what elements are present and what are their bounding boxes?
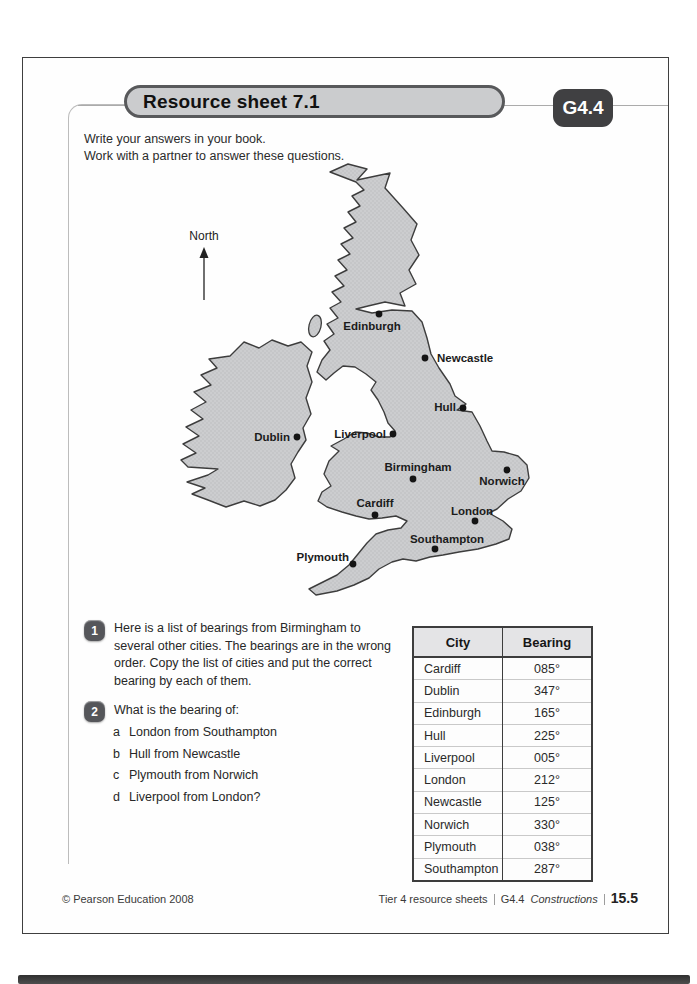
city-dot-edinburgh [376,311,383,318]
bearing-cell: 085° [503,657,593,680]
small-island-shape [307,314,324,338]
city-dot-newcastle [422,355,429,362]
footer-separator [494,894,495,905]
question-item: dLiverpool from London? [113,786,277,808]
table-row: Southampton287° [413,858,592,881]
city-label-birmingham: Birmingham [384,461,451,473]
city-cell: Dublin [413,680,503,702]
city-cell: London [413,769,503,791]
bearing-cell: 125° [503,791,593,813]
footer-page-number: 15.5 [611,890,638,906]
city-cell: Liverpool [413,747,503,769]
footer-unit-code: G4.4 [501,893,525,905]
city-dot-dublin [294,434,301,441]
unit-code-badge: G4.4 [553,89,613,127]
table-header-bearing: Bearing [503,627,593,657]
question-item: aLondon from Southampton [113,721,277,743]
question-1-number: 1 [91,624,98,638]
question-2-number: 2 [91,705,98,719]
question-item-text: Plymouth from Norwich [129,768,258,782]
unit-code: G4.4 [562,97,603,119]
question-item: bHull from Newcastle [113,743,277,765]
city-dot-norwich [504,467,511,474]
city-dot-cardiff [372,512,379,519]
city-dot-liverpool [390,431,397,438]
city-label-norwich: Norwich [479,475,524,487]
bearing-cell: 330° [503,814,593,836]
question-item-letter: d [113,790,129,804]
question-2-text: What is the bearing of: [114,702,406,720]
city-cell: Plymouth [413,836,503,858]
bearing-cell: 165° [503,702,593,724]
question-2-badge: 2 [84,701,105,722]
uk-ireland-map: North EdinburghNewcastleHullDublinLiverp… [160,160,540,600]
table-row: London212° [413,769,592,791]
city-dot-hull [460,405,467,412]
footer-series: Tier 4 resource sheets [379,893,488,905]
city-label-liverpool: Liverpool [334,428,386,440]
city-cell: Norwich [413,814,503,836]
question-item-text: London from Southampton [129,725,277,739]
city-label-dublin: Dublin [254,431,290,443]
city-cell: Newcastle [413,791,503,813]
ireland-shape [181,340,312,507]
footer-copyright: © Pearson Education 2008 [62,893,194,905]
city-cell: Southampton [413,858,503,881]
bearing-cell: 005° [503,747,593,769]
question-item-letter: b [113,747,129,761]
table-row: Newcastle125° [413,791,592,813]
city-dot-birmingham [410,476,417,483]
bearing-cell: 287° [503,858,593,881]
question-1-badge: 1 [84,620,105,641]
city-cell: Edinburgh [413,702,503,724]
city-label-newcastle: Newcastle [437,352,493,364]
question-1-text: Here is a list of bearings from Birmingh… [114,620,406,690]
footer-separator [604,894,605,905]
footer-unit-name: Constructions [530,893,597,905]
city-dot-southampton [432,546,439,553]
city-cell: Hull [413,724,503,746]
north-label: North [189,229,218,243]
table-row: Plymouth038° [413,836,592,858]
bearing-cell: 225° [503,724,593,746]
city-cell: Cardiff [413,657,503,680]
city-dot-london [472,518,479,525]
intro-line-1: Write your answers in your book. [84,131,344,148]
table-row: Liverpool005° [413,747,592,769]
city-label-hull: Hull [434,401,456,413]
table-row: Dublin347° [413,680,592,702]
question-item-letter: a [113,725,129,739]
city-label-edinburgh: Edinburgh [343,320,401,332]
city-dot-plymouth [350,561,357,568]
bottom-edge-strip [18,975,690,984]
map-svg: North EdinburghNewcastleHullDublinLiverp… [160,160,540,600]
table-row: Hull225° [413,724,592,746]
table-row: Cardiff085° [413,657,592,680]
footer-right: Tier 4 resource sheets G4.4 Construction… [379,890,638,906]
question-item-text: Liverpool from London? [129,790,260,804]
question-item-letter: c [113,768,129,782]
city-label-cardiff: Cardiff [356,497,393,509]
question-2-items: aLondon from SouthamptonbHull from Newca… [113,721,277,808]
bearing-cell: 347° [503,680,593,702]
city-label-plymouth: Plymouth [297,551,349,563]
question-item: cPlymouth from Norwich [113,765,277,787]
great-britain-shape [309,164,529,595]
page-title: Resource sheet 7.1 [143,91,320,113]
bearing-cell: 038° [503,836,593,858]
table-header-city: City [413,627,503,657]
city-label-southampton: Southampton [410,533,484,545]
resource-sheet-title-pill: Resource sheet 7.1 [124,85,505,118]
table-row: Norwich330° [413,814,592,836]
table-row: Edinburgh165° [413,702,592,724]
bearing-cell: 212° [503,769,593,791]
city-label-london: London [451,505,493,517]
north-arrow: North [189,229,218,300]
bearings-table: City Bearing Cardiff085°Dublin347°Edinbu… [412,626,593,882]
question-item-text: Hull from Newcastle [129,747,240,761]
